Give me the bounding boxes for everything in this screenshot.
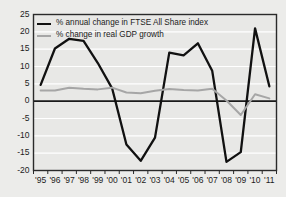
y-axis-tick-label: 20 [20, 27, 29, 36]
y-axis-tick-label: 25 [20, 10, 29, 19]
y-axis-tick-label: 10 [20, 62, 29, 71]
legend-item-gdp: % change in real GDP growth [37, 30, 208, 41]
y-axis-tick-label: -20 [17, 166, 29, 175]
y-axis-tick-label: 5 [25, 79, 30, 88]
x-axis-tick-label: '11 [259, 176, 279, 185]
y-axis-tick-label: 15 [20, 44, 29, 53]
y-axis-tick-label: -5 [22, 114, 30, 123]
legend-line-swatch-ftse-icon [37, 23, 51, 25]
chart-figure: 2520151050-5-10-15-20 '95'96'97'98'99'00… [0, 0, 286, 197]
y-axis-tick-label: -10 [17, 131, 29, 140]
y-axis-tick-label: 0 [25, 96, 30, 105]
legend-label-ftse: % annual change in FTSE All Share index [56, 19, 208, 27]
legend-line-swatch-gdp-icon [37, 35, 51, 37]
legend-item-ftse: % annual change in FTSE All Share index [37, 18, 208, 29]
legend-label-gdp: % change in real GDP growth [56, 31, 164, 39]
y-axis-tick-label: -15 [17, 148, 29, 157]
chart-legend: % annual change in FTSE All Share index … [37, 18, 208, 42]
